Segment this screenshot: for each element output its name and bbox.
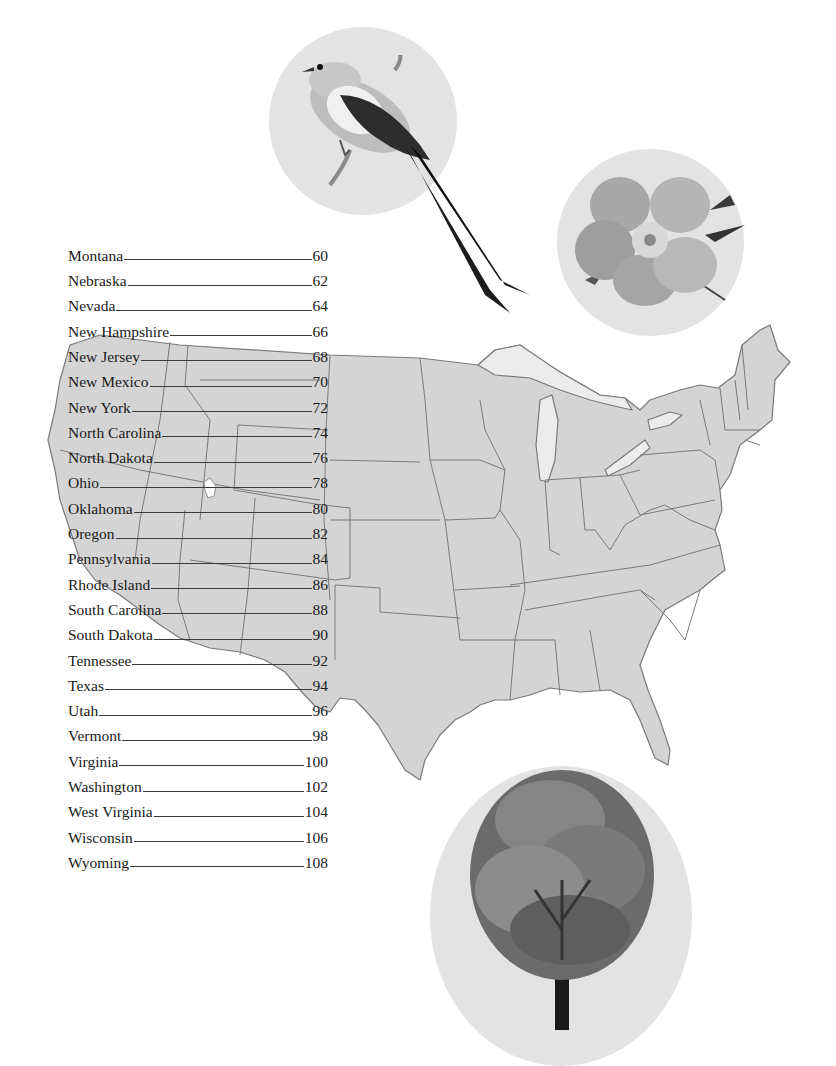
contents-entry[interactable]: New York 72 [68, 390, 328, 415]
page-number: 96 [313, 703, 329, 719]
contents-entry[interactable]: Wisconsin 106 [68, 820, 328, 845]
dot-leader [128, 284, 312, 286]
state-name: New York [68, 400, 131, 416]
dot-leader [134, 511, 312, 513]
page-number: 102 [305, 779, 328, 795]
page-number: 72 [313, 400, 329, 416]
dot-leader [162, 612, 311, 614]
dot-leader [134, 840, 304, 842]
contents-entry[interactable]: Nebraska 62 [68, 263, 328, 288]
dot-leader [141, 359, 312, 361]
page-number: 60 [313, 248, 329, 264]
dot-leader [130, 865, 304, 867]
state-name: Vermont [68, 728, 121, 744]
dot-leader [124, 258, 311, 260]
page-number: 66 [313, 324, 329, 340]
contents-list: Montana 60 Nebraska 62 Nevada 64 New Ham… [68, 238, 328, 870]
contents-entry[interactable]: New Mexico 70 [68, 364, 328, 389]
page-number: 68 [313, 349, 329, 365]
dot-leader [116, 309, 311, 311]
dot-leader [132, 663, 311, 665]
page-number: 64 [313, 298, 329, 314]
contents-entry[interactable]: Montana 60 [68, 238, 328, 263]
dot-leader [162, 435, 311, 437]
state-name: Montana [68, 248, 123, 264]
state-name: South Dakota [68, 627, 153, 643]
state-name: West Virginia [68, 804, 153, 820]
state-name: Wyoming [68, 855, 129, 871]
state-name: New Jersey [68, 349, 140, 365]
page-number: 94 [313, 678, 329, 694]
page-number: 90 [313, 627, 329, 643]
page-number: 104 [305, 804, 328, 820]
state-name: Washington [68, 779, 142, 795]
dot-leader [154, 461, 312, 463]
dot-leader [122, 739, 311, 741]
dot-leader [100, 486, 312, 488]
page-number: 78 [313, 475, 329, 491]
state-name: Nevada [68, 298, 115, 314]
dot-leader [116, 537, 312, 539]
page-number: 84 [313, 551, 329, 567]
page-number: 98 [313, 728, 329, 744]
dot-leader [150, 385, 312, 387]
contents-entry[interactable]: North Carolina 74 [68, 415, 328, 440]
contents-entry[interactable]: Nevada 64 [68, 289, 328, 314]
dot-leader [151, 587, 311, 589]
contents-entry[interactable]: Tennessee 92 [68, 643, 328, 668]
page-number: 92 [313, 653, 329, 669]
contents-entry[interactable]: Washington 102 [68, 769, 328, 794]
state-name: South Carolina [68, 602, 161, 618]
contents-entry[interactable]: Texas 94 [68, 668, 328, 693]
dot-leader [154, 638, 312, 640]
state-name: Oklahoma [68, 501, 133, 517]
contents-entry[interactable]: New Hampshire 66 [68, 314, 328, 339]
dot-leader [154, 815, 304, 817]
page-number: 76 [313, 450, 329, 466]
contents-entry[interactable]: Pennsylvania 84 [68, 542, 328, 567]
page-number: 86 [313, 577, 329, 593]
contents-entry[interactable]: Ohio 78 [68, 466, 328, 491]
state-name: Ohio [68, 475, 99, 491]
page-number: 62 [313, 273, 329, 289]
page-number: 106 [305, 830, 328, 846]
contents-entry[interactable]: Utah 96 [68, 693, 328, 718]
dot-leader [119, 764, 303, 766]
page-number: 70 [313, 374, 329, 390]
state-name: New Mexico [68, 374, 149, 390]
contents-entry[interactable]: Wyoming 108 [68, 845, 328, 870]
dot-leader [170, 334, 311, 336]
state-name: Wisconsin [68, 830, 133, 846]
page-number: 88 [313, 602, 329, 618]
contents-entry[interactable]: West Virginia 104 [68, 795, 328, 820]
dot-leader [143, 790, 304, 792]
state-name: Oregon [68, 526, 115, 542]
state-name: Utah [68, 703, 98, 719]
contents-entry[interactable]: South Carolina 88 [68, 592, 328, 617]
page-number: 80 [313, 501, 329, 517]
state-name: Tennessee [68, 653, 131, 669]
dot-leader [99, 714, 311, 716]
contents-entry[interactable]: South Dakota 90 [68, 617, 328, 642]
page-number: 100 [305, 754, 328, 770]
state-name: Rhode Island [68, 577, 150, 593]
contents-entry[interactable]: North Dakota 76 [68, 440, 328, 465]
state-name: North Dakota [68, 450, 153, 466]
dot-leader [132, 410, 312, 412]
contents-entry[interactable]: Vermont 98 [68, 719, 328, 744]
state-name: Nebraska [68, 273, 127, 289]
state-name: North Carolina [68, 425, 161, 441]
page-number: 74 [313, 425, 329, 441]
dot-leader [152, 562, 312, 564]
contents-entry[interactable]: New Jersey 68 [68, 339, 328, 364]
contents-entry[interactable]: Rhode Island 86 [68, 567, 328, 592]
dot-leader [105, 688, 312, 690]
contents-entry[interactable]: Virginia 100 [68, 744, 328, 769]
contents-entry[interactable]: Oklahoma 80 [68, 491, 328, 516]
state-name: Pennsylvania [68, 551, 151, 567]
flower-illustration [575, 170, 755, 320]
state-name: New Hampshire [68, 324, 169, 340]
page-number: 108 [305, 855, 328, 871]
contents-entry[interactable]: Oregon 82 [68, 516, 328, 541]
bird-illustration [300, 55, 540, 315]
